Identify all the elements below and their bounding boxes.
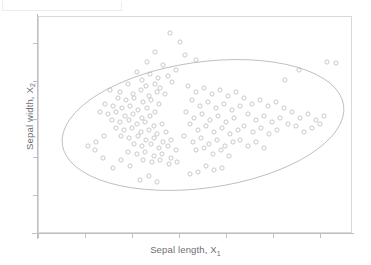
data-point (212, 168, 216, 172)
data-point (136, 134, 140, 138)
data-point (119, 134, 123, 138)
data-point (149, 98, 153, 102)
data-point (190, 98, 194, 102)
data-point (212, 130, 216, 134)
data-point (178, 40, 182, 44)
data-point (86, 144, 90, 148)
data-point (238, 138, 242, 142)
data-point (163, 92, 167, 96)
data-point (158, 158, 162, 162)
data-point (98, 110, 102, 114)
data-point (230, 108, 234, 112)
y-axis-label: Sepal width, X2 (24, 26, 37, 206)
data-point (122, 128, 126, 132)
data-point (152, 154, 156, 158)
data-point (238, 104, 242, 108)
data-point (126, 82, 130, 86)
data-point (155, 132, 159, 136)
data-point (101, 156, 105, 160)
data-point (182, 134, 186, 138)
data-point (275, 128, 279, 132)
data-point (196, 128, 200, 132)
data-point (124, 98, 128, 102)
data-point (145, 106, 149, 110)
data-point (123, 114, 127, 118)
data-point (219, 148, 223, 152)
data-point (155, 90, 159, 94)
data-point (270, 120, 274, 124)
data-point (102, 134, 106, 138)
data-point (156, 76, 160, 80)
data-point (194, 148, 198, 152)
y-axis-label-subscript: 2 (24, 83, 35, 87)
data-point (118, 120, 122, 124)
data-point (141, 100, 145, 104)
data-point (114, 110, 118, 114)
data-point (194, 90, 198, 94)
data-point (141, 158, 145, 162)
data-point (302, 130, 306, 134)
data-point (232, 116, 236, 120)
data-point (168, 31, 172, 35)
data-point (135, 70, 139, 74)
data-point (94, 140, 98, 144)
data-point (196, 170, 200, 174)
data-point (174, 148, 178, 152)
data-point (145, 60, 149, 64)
data-point (147, 94, 151, 98)
data-point (157, 146, 161, 150)
data-point (194, 58, 198, 62)
data-point (278, 116, 282, 120)
data-point (186, 84, 190, 88)
data-point (227, 154, 231, 158)
data-point (157, 102, 161, 106)
data-point (236, 128, 240, 132)
data-point (120, 106, 124, 110)
data-point (127, 118, 131, 122)
data-point (306, 112, 310, 116)
data-point (228, 132, 232, 136)
data-point (322, 114, 326, 118)
data-point (132, 142, 136, 146)
data-point (174, 68, 178, 72)
data-point (114, 126, 118, 130)
data-point (199, 136, 203, 140)
data-point (143, 120, 147, 124)
data-point (140, 78, 144, 82)
data-point (135, 122, 139, 126)
data-point (251, 130, 255, 134)
data-point (153, 110, 157, 114)
data-point (164, 130, 168, 134)
data-point (130, 126, 134, 130)
data-point (310, 126, 314, 130)
data-point (215, 138, 219, 142)
data-point (136, 108, 140, 112)
data-point (111, 104, 115, 108)
data-point (220, 126, 224, 130)
data-point (184, 110, 188, 114)
data-point (266, 104, 270, 108)
data-point (204, 164, 208, 168)
data-point (144, 84, 148, 88)
data-point (147, 128, 151, 132)
data-point (155, 180, 159, 184)
scatter-plot-figure: Sepal length, X1 Sepal width, X2 (0, 0, 371, 265)
data-point (283, 78, 287, 82)
data-point (218, 88, 222, 92)
data-point (152, 124, 156, 128)
y-axis-label-text: Sepal width, X (24, 87, 35, 150)
data-point (223, 144, 227, 148)
x-axis-label: Sepal length, X1 (0, 244, 371, 257)
data-point (143, 150, 147, 154)
data-point (128, 164, 132, 168)
data-point (170, 80, 174, 84)
data-point (131, 92, 135, 96)
data-point (202, 146, 206, 150)
data-point (211, 152, 215, 156)
data-point (132, 96, 136, 100)
x-axis-label-subscript: 1 (217, 244, 221, 255)
data-point (147, 174, 151, 178)
data-point (128, 104, 132, 108)
data-point (222, 102, 226, 106)
data-point (161, 140, 165, 144)
